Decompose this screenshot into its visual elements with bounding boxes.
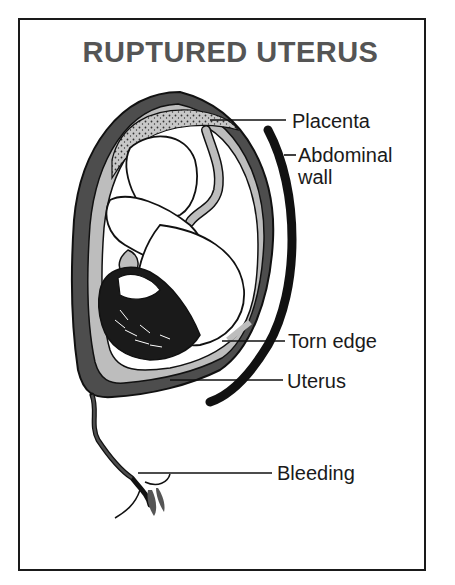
placenta-label: Placenta [292,110,370,132]
uterus-label: Uterus [287,370,346,392]
bleeding-label: Bleeding [277,462,355,484]
abdominal-wall-label: Abdominal wall [298,144,418,188]
torn-edge-label: Torn edge [288,330,377,352]
bleeding-shape [92,395,170,518]
ruptured-uterus-illustration [0,0,455,585]
